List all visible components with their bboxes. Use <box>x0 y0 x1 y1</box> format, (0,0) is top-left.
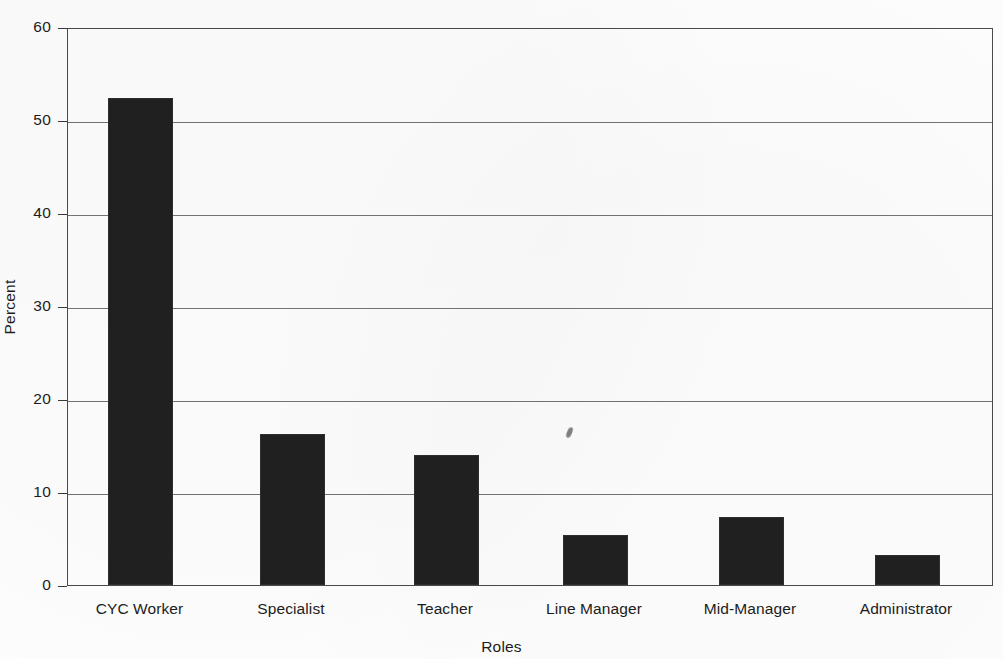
bar <box>563 535 628 585</box>
x-axis-category-label: Line Manager <box>546 600 642 618</box>
y-axis-tick-mark <box>58 214 67 215</box>
y-axis-tick-mark <box>58 307 67 308</box>
bar <box>719 517 784 585</box>
gridline <box>68 308 992 309</box>
bar <box>108 98 173 585</box>
bar <box>414 455 479 585</box>
x-axis-category-label: Mid-Manager <box>704 600 796 618</box>
gridline <box>68 122 992 123</box>
y-axis-tick-label: 50 <box>0 111 51 129</box>
bar <box>260 434 325 585</box>
x-axis-category-label: Administrator <box>860 600 953 618</box>
y-axis-tick-mark <box>58 28 67 29</box>
y-axis-tick-mark <box>58 121 67 122</box>
y-axis-tick-mark <box>58 586 67 587</box>
x-axis-category-label: Teacher <box>417 600 473 618</box>
x-axis-category-label: Specialist <box>257 600 324 618</box>
bar-chart-figure: 6050403020100 CYC WorkerSpecialistTeache… <box>0 0 1003 659</box>
y-axis-tick-label: 60 <box>0 18 51 36</box>
plot-area <box>67 28 993 586</box>
y-axis-tick-mark <box>58 400 67 401</box>
y-axis-tick-mark <box>58 493 67 494</box>
y-axis-tick-label: 40 <box>0 204 51 222</box>
x-axis-title: Roles <box>0 638 1003 656</box>
gridline <box>68 401 992 402</box>
y-axis-tick-label: 10 <box>0 483 51 501</box>
gridline <box>68 494 992 495</box>
bar <box>875 555 940 585</box>
y-axis-tick-label: 20 <box>0 390 51 408</box>
y-axis-title: Percent <box>1 264 19 350</box>
x-axis-category-label: CYC Worker <box>96 600 184 618</box>
gridline <box>68 215 992 216</box>
y-axis-tick-label: 0 <box>0 576 51 594</box>
